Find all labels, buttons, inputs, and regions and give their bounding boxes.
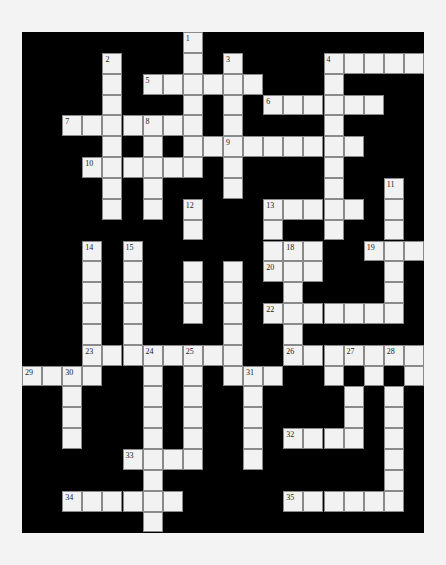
crossword-cell[interactable] — [163, 115, 183, 136]
crossword-cell[interactable] — [364, 95, 384, 116]
crossword-cell[interactable] — [324, 178, 344, 199]
crossword-cell[interactable] — [324, 428, 344, 449]
crossword-cell[interactable] — [324, 345, 344, 366]
crossword-cell[interactable] — [183, 386, 203, 407]
crossword-cell[interactable] — [143, 449, 163, 470]
crossword-cell[interactable] — [143, 491, 163, 512]
crossword-cell[interactable] — [82, 261, 102, 282]
crossword-cell[interactable] — [344, 491, 364, 512]
crossword-cell[interactable]: 24 — [143, 345, 163, 366]
crossword-cell[interactable] — [324, 220, 344, 241]
crossword-cell[interactable] — [384, 220, 404, 241]
crossword-cell[interactable] — [404, 345, 424, 366]
crossword-cell[interactable] — [82, 324, 102, 345]
crossword-cell[interactable] — [364, 491, 384, 512]
crossword-cell[interactable]: 8 — [143, 115, 163, 136]
crossword-cell[interactable] — [183, 366, 203, 387]
crossword-cell[interactable] — [324, 136, 344, 157]
crossword-cell[interactable] — [123, 491, 143, 512]
crossword-cell[interactable] — [203, 74, 223, 95]
crossword-cell[interactable]: 15 — [123, 241, 143, 262]
crossword-cell[interactable] — [344, 407, 364, 428]
crossword-cell[interactable] — [384, 261, 404, 282]
crossword-cell[interactable] — [183, 407, 203, 428]
crossword-cell[interactable] — [303, 428, 323, 449]
crossword-cell[interactable]: 5 — [143, 74, 163, 95]
crossword-cell[interactable] — [143, 512, 163, 533]
crossword-cell[interactable] — [303, 261, 323, 282]
crossword-cell[interactable] — [324, 95, 344, 116]
crossword-cell[interactable] — [243, 428, 263, 449]
crossword-cell[interactable]: 35 — [283, 491, 303, 512]
crossword-cell[interactable] — [123, 324, 143, 345]
crossword-cell[interactable] — [223, 303, 243, 324]
crossword-cell[interactable] — [243, 449, 263, 470]
crossword-cell[interactable] — [102, 95, 122, 116]
crossword-cell[interactable]: 29 — [22, 366, 42, 387]
crossword-cell[interactable] — [283, 261, 303, 282]
crossword-cell[interactable] — [183, 53, 203, 74]
crossword-cell[interactable] — [143, 157, 163, 178]
crossword-cell[interactable] — [344, 199, 364, 220]
crossword-cell[interactable] — [303, 199, 323, 220]
crossword-cell[interactable]: 13 — [263, 199, 283, 220]
crossword-cell[interactable] — [243, 74, 263, 95]
crossword-cell[interactable] — [183, 157, 203, 178]
crossword-cell[interactable] — [263, 366, 283, 387]
crossword-cell[interactable] — [163, 491, 183, 512]
crossword-cell[interactable] — [243, 386, 263, 407]
crossword-cell[interactable] — [344, 53, 364, 74]
crossword-cell[interactable]: 30 — [62, 366, 82, 387]
crossword-cell[interactable]: 33 — [123, 449, 143, 470]
crossword-cell[interactable] — [344, 95, 364, 116]
crossword-cell[interactable] — [243, 407, 263, 428]
crossword-cell[interactable] — [183, 449, 203, 470]
crossword-cell[interactable] — [324, 303, 344, 324]
crossword-cell[interactable] — [404, 241, 424, 262]
crossword-cell[interactable] — [404, 53, 424, 74]
crossword-cell[interactable] — [364, 303, 384, 324]
crossword-cell[interactable]: 1 — [183, 32, 203, 53]
crossword-cell[interactable] — [163, 345, 183, 366]
crossword-cell[interactable] — [183, 95, 203, 116]
crossword-cell[interactable]: 3 — [223, 53, 243, 74]
crossword-cell[interactable] — [364, 53, 384, 74]
crossword-cell[interactable] — [143, 407, 163, 428]
crossword-cell[interactable] — [384, 491, 404, 512]
crossword-cell[interactable] — [183, 303, 203, 324]
crossword-cell[interactable] — [143, 136, 163, 157]
crossword-cell[interactable] — [303, 136, 323, 157]
crossword-cell[interactable] — [42, 366, 62, 387]
crossword-cell[interactable] — [163, 157, 183, 178]
crossword-cell[interactable] — [384, 428, 404, 449]
crossword-cell[interactable] — [364, 345, 384, 366]
crossword-cell[interactable] — [223, 345, 243, 366]
crossword-cell[interactable]: 32 — [283, 428, 303, 449]
crossword-cell[interactable] — [102, 199, 122, 220]
crossword-cell[interactable] — [143, 366, 163, 387]
crossword-cell[interactable] — [183, 220, 203, 241]
crossword-cell[interactable] — [223, 261, 243, 282]
crossword-cell[interactable] — [143, 470, 163, 491]
crossword-cell[interactable] — [203, 345, 223, 366]
crossword-cell[interactable] — [223, 282, 243, 303]
crossword-cell[interactable] — [123, 345, 143, 366]
crossword-cell[interactable]: 19 — [364, 241, 384, 262]
crossword-cell[interactable] — [82, 282, 102, 303]
crossword-cell[interactable] — [203, 136, 223, 157]
crossword-cell[interactable] — [324, 74, 344, 95]
crossword-cell[interactable] — [223, 95, 243, 116]
crossword-cell[interactable] — [364, 366, 384, 387]
crossword-cell[interactable] — [163, 74, 183, 95]
crossword-cell[interactable] — [283, 136, 303, 157]
crossword-cell[interactable] — [62, 428, 82, 449]
crossword-cell[interactable] — [344, 428, 364, 449]
crossword-cell[interactable] — [283, 95, 303, 116]
crossword-cell[interactable] — [324, 366, 344, 387]
crossword-cell[interactable] — [344, 136, 364, 157]
crossword-cell[interactable]: 18 — [283, 241, 303, 262]
crossword-cell[interactable] — [123, 115, 143, 136]
crossword-cell[interactable]: 6 — [263, 95, 283, 116]
crossword-cell[interactable] — [102, 115, 122, 136]
crossword-cell[interactable] — [243, 136, 263, 157]
